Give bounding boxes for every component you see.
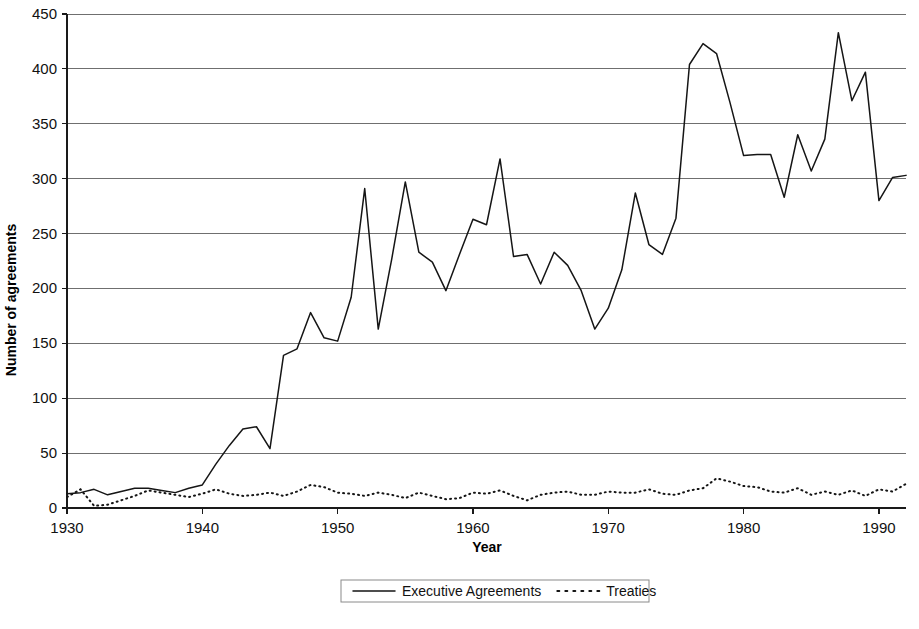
x-tick-label-1960: 1960	[456, 519, 489, 536]
chart-container: 050100150200250300350400450 193019401950…	[0, 0, 919, 629]
tickmarks-group	[62, 14, 879, 514]
y-tick-label-400: 400	[32, 60, 57, 77]
x-tick-label-1940: 1940	[186, 519, 219, 536]
y-axis-title: Number of agreements	[3, 224, 19, 377]
y-tick-labels: 050100150200250300350400450	[32, 5, 57, 516]
x-tick-label-1930: 1930	[50, 519, 83, 536]
axes-group	[67, 14, 906, 508]
x-tick-label-1970: 1970	[592, 519, 625, 536]
line-chart: 050100150200250300350400450 193019401950…	[0, 0, 919, 629]
x-tick-label-1980: 1980	[727, 519, 760, 536]
y-tick-label-350: 350	[32, 115, 57, 132]
x-tick-label-1990: 1990	[862, 519, 895, 536]
x-tick-labels: 1930194019501960197019801990	[50, 519, 895, 536]
y-tick-label-450: 450	[32, 5, 57, 22]
y-tick-label-100: 100	[32, 389, 57, 406]
x-tick-label-1950: 1950	[321, 519, 354, 536]
chart-legend: Executive AgreementsTreaties	[341, 580, 656, 602]
y-tick-label-150: 150	[32, 334, 57, 351]
legend-label-treaties: Treaties	[606, 583, 656, 599]
x-axis-title: Year	[472, 539, 502, 555]
legend-label-executive-agreements: Executive Agreements	[402, 583, 541, 599]
y-tick-label-300: 300	[32, 170, 57, 187]
y-tick-label-0: 0	[49, 499, 57, 516]
gridlines-group	[67, 14, 906, 453]
series-line-treaties	[67, 478, 906, 505]
y-tick-label-200: 200	[32, 279, 57, 296]
y-tick-label-50: 50	[40, 444, 57, 461]
series-group	[67, 33, 906, 506]
y-tick-label-250: 250	[32, 225, 57, 242]
series-line-executive-agreements	[67, 33, 906, 495]
